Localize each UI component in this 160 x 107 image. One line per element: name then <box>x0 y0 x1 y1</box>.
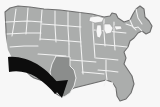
us-map-figure: United States map with southern border s… <box>0 0 160 107</box>
us-map-svg <box>0 0 160 107</box>
lake-michigan <box>96 25 102 38</box>
lake-superior <box>89 16 104 23</box>
